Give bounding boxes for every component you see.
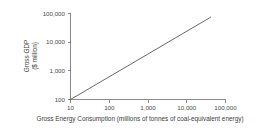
data-series-line [71,17,212,100]
x-tick-label: 100 [104,104,115,111]
y-axis-title-line2: ($ million) [31,42,39,70]
y-tick-label: 10,000 [46,38,65,45]
x-tick-marks [71,100,226,103]
x-tick-label: 10,000 [177,104,196,111]
chart-canvas: 100,000 10,000 1,000 100 10 100 1,000 10… [0,0,277,128]
y-tick-label: 100 [55,96,66,103]
y-tick-label: 100,000 [43,10,66,17]
x-tick-label: 100,000 [214,104,237,111]
x-tick-label: 10 [67,104,74,111]
y-tick-labels: 100,000 10,000 1,000 100 [43,10,66,103]
x-tick-labels: 10 100 1,000 10,000 100,000 [67,104,237,111]
y-tick-marks [68,14,71,100]
y-axis-title-line1: Gross GDP [23,40,30,73]
x-tick-label: 1,000 [140,104,156,111]
y-tick-label: 1,000 [50,67,66,74]
x-axis-title: Gross Energy Consumption (millions of to… [36,115,243,123]
y-axis-title: Gross GDP ($ million) [23,40,39,73]
chart-figure: 100,000 10,000 1,000 100 10 100 1,000 10… [0,0,277,128]
axis-spines [71,14,226,100]
